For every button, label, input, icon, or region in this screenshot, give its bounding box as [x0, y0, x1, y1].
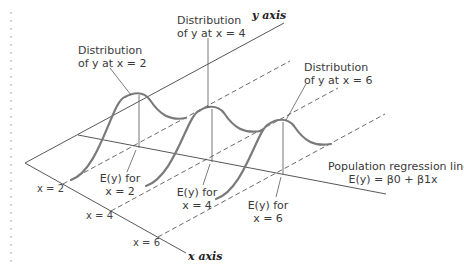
- x-tick-4: x = 4: [86, 209, 113, 222]
- regression-label: Population regression line E(y) = β0 + β…: [328, 160, 458, 186]
- x-axis-label: x axis: [188, 250, 222, 263]
- regression-diagram: [0, 0, 464, 276]
- y-axis-line: [25, 23, 284, 163]
- distribution-label-2: Distribution of y at x = 2: [78, 44, 140, 70]
- x-tick-6: x = 6: [133, 236, 160, 249]
- distribution-label-6: Distribution of y at x = 6: [304, 61, 366, 87]
- dotted-margin: [10, 12, 12, 262]
- y-axis-label: y axis: [252, 9, 286, 22]
- ey-label-6: E(y) for x = 6: [243, 199, 293, 225]
- ey-label-2: E(y) for x = 2: [95, 172, 145, 198]
- ey-label-4: E(y) for x = 4: [172, 186, 222, 212]
- distribution-label-4: Distribution of y at x = 4: [177, 14, 239, 40]
- x-tick-2: x = 2: [37, 182, 64, 195]
